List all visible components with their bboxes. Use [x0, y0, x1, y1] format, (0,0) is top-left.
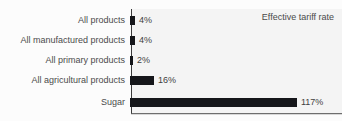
bar [130, 98, 297, 107]
bar [130, 36, 135, 45]
category-label: All primary products [0, 55, 128, 65]
bar-track: 2% [128, 51, 342, 69]
bar-chart-figure: Effective tariff rate All products4%All … [0, 0, 342, 121]
value-label: 2% [137, 55, 150, 65]
chart-title-remnant [0, 0, 342, 7]
bar-row: All manufactured products4% [0, 31, 342, 49]
value-label: 117% [301, 97, 323, 107]
bar-track: 117% [128, 93, 342, 111]
bar [130, 16, 135, 25]
bar [130, 56, 133, 65]
value-label: 4% [139, 15, 152, 25]
bar-track: 4% [128, 11, 342, 29]
category-label: Sugar [0, 97, 128, 107]
bar-row: Sugar117% [0, 93, 342, 111]
bar-row: All agricultural products16% [0, 71, 342, 89]
bar-row: All primary products2% [0, 51, 342, 69]
bar [130, 76, 154, 85]
bar-row: All products4% [0, 11, 342, 29]
value-label: 16% [158, 75, 176, 85]
category-label: All agricultural products [0, 75, 128, 85]
category-label: All manufactured products [0, 35, 128, 45]
bar-track: 16% [128, 71, 342, 89]
value-label: 4% [139, 35, 152, 45]
category-label: All products [0, 15, 128, 25]
bar-track: 4% [128, 31, 342, 49]
baseline-rule [131, 114, 342, 115]
